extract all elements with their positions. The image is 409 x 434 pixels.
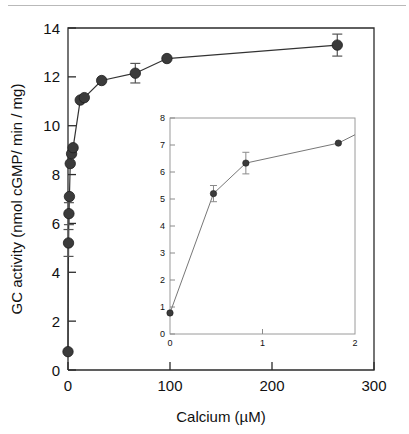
y-tick-label: 4 [52, 264, 60, 281]
inset-data-point-marker [335, 140, 341, 146]
x-axis-label: Calcium (µM) [176, 408, 265, 425]
x-tick-label: 300 [361, 377, 386, 394]
inset-x-tick-label: 2 [352, 338, 357, 348]
data-point-marker [130, 68, 140, 78]
gc-activity-calcium-chart: 024681012140100200300Calcium (µM)GC acti… [0, 0, 409, 434]
x-tick-label: 0 [64, 377, 72, 394]
y-axis-label: GC activity (nmol cGMP/ min / mg) [8, 84, 25, 315]
data-point-marker [63, 238, 73, 248]
data-point-marker [162, 53, 172, 63]
x-tick-label: 100 [157, 377, 182, 394]
y-tick-label: 2 [52, 313, 60, 330]
inset-plot-area: 012345678012 [160, 113, 358, 348]
inset-y-tick-label: 6 [160, 167, 165, 177]
y-tick-label: 12 [43, 68, 60, 85]
inset-y-tick-label: 5 [160, 194, 165, 204]
inset-y-tick-label: 1 [160, 302, 165, 312]
inset-y-tick-label: 3 [160, 248, 165, 258]
x-tick-label: 200 [259, 377, 284, 394]
inset-y-tick-label: 4 [160, 221, 165, 231]
inset-frame [170, 118, 355, 334]
y-tick-label: 6 [52, 215, 60, 232]
inset-x-tick-label: 1 [260, 338, 265, 348]
inset-y-tick-label: 2 [160, 275, 165, 285]
y-tick-label: 10 [43, 117, 60, 134]
inset-y-tick-label: 7 [160, 140, 165, 150]
data-point-marker [96, 75, 106, 85]
figure-panel: 024681012140100200300Calcium (µM)GC acti… [0, 0, 409, 434]
inset-data-point-marker [167, 310, 173, 316]
inset-y-tick-label: 8 [160, 113, 165, 123]
data-point-marker [79, 92, 89, 102]
y-tick-label: 8 [52, 166, 60, 183]
y-tick-label: 0 [52, 362, 60, 379]
data-point-marker [64, 208, 74, 218]
data-point-marker [64, 191, 74, 201]
inset-data-point-marker [243, 160, 249, 166]
data-point-marker [63, 346, 73, 356]
top-rule-divider [8, 5, 406, 6]
y-tick-label: 14 [43, 20, 60, 37]
data-point-marker [68, 143, 78, 153]
inset-x-tick-label: 0 [167, 338, 172, 348]
data-point-marker [332, 40, 342, 50]
data-point-marker [65, 158, 75, 168]
inset-y-tick-label: 0 [160, 329, 165, 339]
inset-data-point-marker [210, 190, 216, 196]
